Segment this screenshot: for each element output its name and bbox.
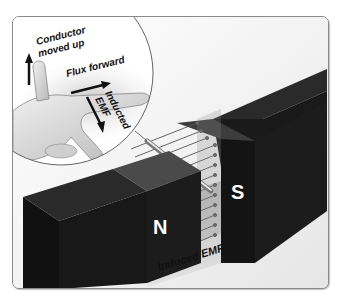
generator-diagram: S [13, 17, 328, 288]
north-pole-label: N [153, 216, 167, 238]
diagram-frame: S [12, 16, 329, 289]
south-pole-label: S [231, 181, 244, 203]
